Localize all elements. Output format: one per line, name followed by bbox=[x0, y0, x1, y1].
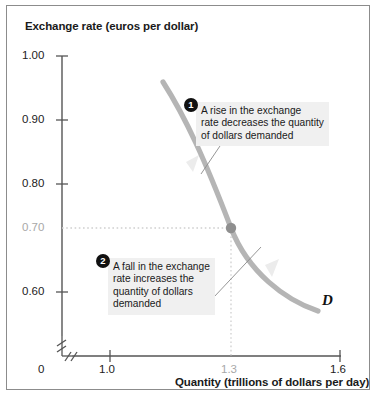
callout-2-line-1: A fall in the exchange bbox=[113, 261, 210, 273]
callout-1-line-2: rate decreases the quantity bbox=[201, 117, 324, 129]
callout-2-line-4: demanded bbox=[113, 298, 210, 310]
demand-curve-label: D bbox=[322, 292, 333, 309]
x-tick-label-0: 0 bbox=[38, 363, 44, 375]
callout-1-line-3: of dollars demanded bbox=[201, 130, 324, 142]
y-tick-label-0-60: 0.60 bbox=[22, 285, 44, 297]
x-tick-label-1-0: 1.0 bbox=[99, 363, 115, 375]
y-tick-label-0-80: 0.80 bbox=[22, 177, 44, 189]
callout-2-line-3: quantity of dollars bbox=[113, 286, 210, 298]
x-tick-label-1-3: 1.3 bbox=[221, 363, 237, 375]
x-axis-title: Quantity (trillions of dollars per day) bbox=[175, 376, 369, 388]
callout-2-leader-line bbox=[214, 247, 261, 297]
callout-1-line-1: A rise in the exchange bbox=[201, 105, 324, 117]
callout-1: A rise in the exchange rate decreases th… bbox=[196, 102, 329, 146]
callout-2: A fall in the exchange rate increases th… bbox=[108, 258, 215, 315]
equilibrium-point bbox=[226, 223, 236, 233]
axis-break-marks bbox=[57, 336, 77, 361]
y-tick-label-0-70: 0.70 bbox=[22, 221, 44, 233]
x-tick-label-1-6: 1.6 bbox=[330, 363, 346, 375]
figure-container: Exchange rate (euros per dollar) bbox=[0, 0, 376, 420]
y-tick-label-1-00: 1.00 bbox=[22, 49, 44, 61]
y-tick-label-0-90: 0.90 bbox=[22, 113, 44, 125]
callout-1-badge: 1 bbox=[184, 98, 198, 112]
callout-2-line-2: rate increases the bbox=[113, 273, 210, 285]
callout-2-badge: 2 bbox=[96, 254, 110, 268]
chart-plot bbox=[0, 0, 376, 420]
